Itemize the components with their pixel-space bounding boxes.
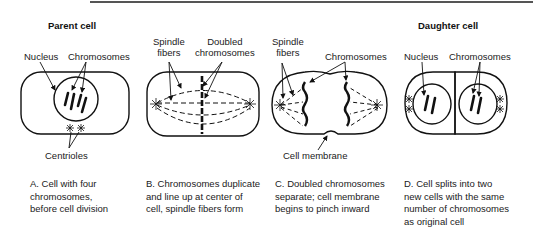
doubled-chromosomes-label: Doubled chromosomes [195,36,255,58]
chromosomes-label-a: Chromosomes [68,51,130,62]
caption-c: C. Doubled chromosomes separate; cell me… [275,178,385,216]
stage-d-cells [405,62,507,134]
centrioles-label: Centrioles [45,150,88,161]
caption-b: B. Chromosomes duplicate and line up at … [146,178,260,216]
stage-c-cell [272,62,387,150]
chromosomes-label-d: Chromosomes [449,51,511,62]
spindle-fibers-label-b: Spindle fibers [153,36,185,58]
caption-d: D. Cell splits into two new cells with t… [404,178,509,228]
caption-a: A. Cell with four chromosomes, before ce… [30,178,108,216]
nucleus-label-d: Nucleus [404,51,438,62]
parent-cell-title: Parent cell [48,20,96,31]
cell-membrane-label: Cell membrane [283,150,347,161]
chromosomes-label-c: Chromosomes [325,51,387,62]
nucleus-label-a: Nucleus [24,51,58,62]
stage-a-cell [21,62,129,148]
stage-b-cell [147,62,259,136]
daughter-cell-title: Daughter cell [418,20,478,31]
spindle-fibers-label-c: Spindle fibers [272,36,304,58]
